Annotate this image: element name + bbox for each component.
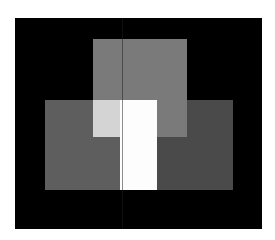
figure-canvas: [0, 0, 275, 240]
left-overlap-region: [93, 100, 120, 137]
center-white-column: [120, 100, 157, 190]
vertical-seam-line: [122, 18, 123, 229]
